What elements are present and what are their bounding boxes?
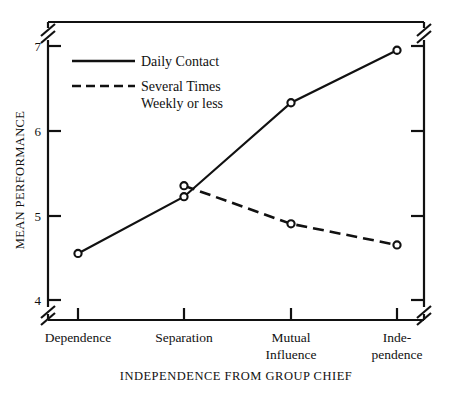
data-point-marker (74, 250, 81, 257)
x-axis-title: INDEPENDENCE FROM GROUP CHIEF (120, 369, 352, 383)
y-tick-label-4: 4 (35, 293, 42, 308)
series-line-1 (78, 50, 397, 253)
x-tick-label-4-line1: Inde- (383, 330, 412, 345)
y-tick-label-6: 6 (35, 124, 42, 139)
series-line-2 (184, 186, 397, 245)
y-tick-marks-right (411, 46, 424, 300)
legend-label-several-times-line1: Several Times (141, 79, 221, 94)
axis-break-marks (41, 24, 431, 325)
x-tick-label-2: Separation (155, 330, 213, 345)
legend-label-several-times-line2: Weekly or less (141, 96, 223, 111)
x-tick-label-3-line1: Mutual (272, 330, 311, 345)
data-series-layer (74, 47, 400, 257)
series-1 (74, 47, 400, 257)
x-tick-label-3-line2: Influence (266, 347, 317, 362)
plot-frame (48, 22, 424, 320)
y-tick-marks-left (48, 46, 61, 300)
y-axis-title: MEAN PERFORMANCE (13, 111, 27, 250)
data-point-marker (287, 220, 294, 227)
y-tick-label-5: 5 (35, 209, 42, 224)
legend-label-daily-contact: Daily Contact (141, 54, 219, 69)
data-point-marker (180, 182, 187, 189)
line-chart: 7 6 5 4 MEAN PERFORMANCE Dependence Sepa… (0, 0, 454, 393)
y-tick-label-7: 7 (35, 39, 42, 54)
series-2 (180, 182, 400, 248)
x-tick-label-1: Dependence (45, 330, 112, 345)
data-point-marker (180, 193, 187, 200)
x-tick-label-4-line2: pendence (372, 347, 423, 362)
data-point-marker (287, 99, 294, 106)
data-point-marker (393, 241, 400, 248)
chart-figure: 7 6 5 4 MEAN PERFORMANCE Dependence Sepa… (0, 0, 454, 393)
chart-legend: Daily Contact Several Times Weekly or le… (72, 54, 223, 111)
x-tick-labels: Dependence Separation Mutual Influence I… (45, 330, 423, 362)
data-point-marker (393, 47, 400, 54)
y-tick-labels: 7 6 5 4 (35, 39, 42, 308)
